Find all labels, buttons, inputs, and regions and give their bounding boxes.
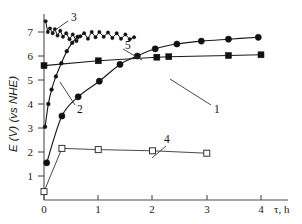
data-point bbox=[102, 35, 105, 38]
data-point bbox=[225, 53, 231, 59]
data-point bbox=[117, 61, 123, 67]
series-4-markers bbox=[41, 145, 210, 194]
data-point bbox=[255, 34, 261, 40]
y-tick-label-5: 5 bbox=[28, 74, 34, 86]
series-3-group bbox=[44, 20, 136, 43]
series-label-5: 5 bbox=[125, 39, 131, 51]
series-label-2: 2 bbox=[77, 103, 83, 115]
series-5-group bbox=[41, 52, 264, 69]
data-point bbox=[95, 58, 101, 64]
data-point bbox=[82, 32, 85, 35]
x-tick-label-4: 4 bbox=[258, 203, 264, 215]
data-point bbox=[94, 36, 97, 39]
data-point bbox=[44, 20, 47, 23]
series-label-3: 3 bbox=[71, 11, 77, 23]
data-point bbox=[86, 37, 89, 40]
data-point bbox=[59, 29, 62, 32]
data-point bbox=[166, 54, 172, 60]
data-point bbox=[124, 33, 127, 36]
data-point bbox=[43, 125, 47, 129]
data-point bbox=[59, 145, 65, 151]
data-point bbox=[95, 147, 101, 153]
data-point bbox=[65, 49, 69, 53]
x-tick-label-1: 1 bbox=[95, 203, 101, 215]
y-tick-label-6: 6 bbox=[28, 50, 34, 62]
data-point bbox=[174, 41, 180, 47]
data-point bbox=[59, 113, 65, 119]
data-point bbox=[119, 37, 122, 40]
leader-line-1 bbox=[170, 79, 211, 105]
data-point bbox=[258, 52, 264, 58]
series-4-group bbox=[41, 145, 210, 194]
y-tick-label-1: 1 bbox=[28, 170, 34, 182]
series-4-line bbox=[44, 148, 207, 191]
leader-line-2 bbox=[60, 82, 75, 105]
data-point bbox=[204, 150, 210, 156]
data-point bbox=[98, 30, 101, 33]
y-tick-label-4: 4 bbox=[28, 98, 34, 110]
data-point bbox=[44, 160, 50, 166]
y-axis-ticks: 1 2 3 4 5 6 7 bbox=[28, 26, 45, 182]
series-label-1: 1 bbox=[214, 103, 220, 115]
data-point bbox=[106, 31, 109, 34]
data-point bbox=[50, 88, 54, 92]
data-point bbox=[68, 38, 71, 41]
x-tick-label-0: 0 bbox=[41, 203, 47, 215]
data-point bbox=[75, 39, 78, 42]
x-tick-label-3: 3 bbox=[204, 203, 210, 215]
data-point bbox=[61, 35, 64, 38]
data-point bbox=[56, 34, 59, 37]
data-point bbox=[115, 32, 118, 35]
data-point bbox=[96, 78, 102, 84]
data-point bbox=[65, 32, 68, 35]
data-point bbox=[70, 41, 74, 45]
chart-figure: E (V) (vs NHE) 1 2 3 4 5 6 7 bbox=[0, 0, 302, 224]
data-point bbox=[152, 46, 158, 52]
data-point bbox=[54, 75, 58, 79]
data-point bbox=[111, 36, 114, 39]
x-axis-label: τ, h bbox=[274, 203, 290, 215]
data-point bbox=[225, 36, 231, 42]
data-point bbox=[154, 54, 160, 60]
data-point bbox=[71, 33, 74, 36]
x-tick-label-2: 2 bbox=[149, 203, 155, 215]
data-point bbox=[48, 27, 51, 30]
y-tick-label-2: 2 bbox=[28, 146, 34, 158]
data-point bbox=[150, 148, 156, 154]
y-tick-label-3: 3 bbox=[28, 122, 34, 134]
series-label-4: 4 bbox=[164, 133, 170, 145]
data-point bbox=[41, 189, 47, 195]
data-point bbox=[198, 38, 204, 44]
y-axis-label: E (V) (vs NHE) bbox=[7, 76, 19, 152]
series-5-markers bbox=[41, 52, 264, 69]
x-axis-ticks: 0 1 2 3 4 τ, h bbox=[41, 195, 290, 215]
data-point bbox=[75, 94, 81, 100]
data-point bbox=[41, 63, 47, 69]
y-tick-label-7: 7 bbox=[28, 26, 34, 38]
data-point bbox=[79, 35, 82, 38]
data-point bbox=[46, 30, 49, 33]
data-point bbox=[90, 30, 93, 33]
chart-svg: E (V) (vs NHE) 1 2 3 4 5 6 7 bbox=[0, 0, 302, 224]
data-point bbox=[132, 36, 135, 39]
data-point bbox=[46, 102, 50, 106]
data-point bbox=[59, 61, 63, 65]
series-3-markers bbox=[44, 20, 136, 43]
